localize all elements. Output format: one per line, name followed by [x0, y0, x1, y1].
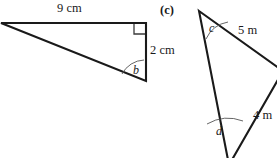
right-triangle-upper-side-label: 5 m — [238, 24, 257, 37]
angle-arc-d-icon — [207, 118, 243, 124]
angle-label-b: b — [133, 64, 139, 76]
right-angle-marker-icon — [134, 24, 145, 34]
left-triangle-outline — [1, 23, 146, 81]
left-triangle-right-side-label: 2 cm — [150, 44, 175, 57]
angle-label-c: c — [209, 22, 214, 34]
left-triangle-top-side-label: 9 cm — [57, 2, 82, 15]
geometry-diagram — [0, 0, 277, 158]
left-triangle-group — [1, 23, 146, 81]
figure-canvas: 9 cm 2 cm b (c) c 5 m 4 m d — [0, 0, 277, 158]
right-triangle-lower-side-label: 4 m — [253, 109, 272, 122]
part-label-c: (c) — [160, 4, 174, 17]
angle-label-d: d — [216, 125, 222, 137]
